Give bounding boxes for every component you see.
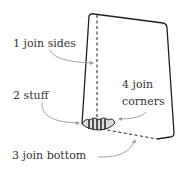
label-join-bottom: 3 join bottom bbox=[12, 150, 86, 162]
arrow-join-corners bbox=[120, 112, 146, 119]
arrowhead-icon bbox=[90, 61, 94, 65]
arrow-stuff bbox=[42, 102, 78, 123]
arrowhead-icon bbox=[118, 117, 122, 121]
label-join-corners-line1: 4 join bbox=[122, 79, 153, 91]
label-join-corners-line2: corners bbox=[122, 96, 165, 108]
label-join-sides: 1 join sides bbox=[13, 38, 76, 50]
bottom-seam-dashed bbox=[102, 129, 157, 139]
stuffing-icon bbox=[82, 118, 115, 130]
arrowhead-icon bbox=[132, 139, 136, 143]
label-stuff: 2 stuff bbox=[13, 90, 48, 102]
arrowhead-icon bbox=[76, 121, 80, 125]
arrow-join-bottom bbox=[98, 141, 134, 157]
